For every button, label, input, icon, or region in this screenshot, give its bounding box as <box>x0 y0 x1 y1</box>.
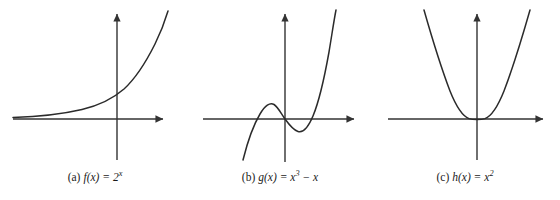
panel-c: (c)h(x) = x2 <box>370 0 560 200</box>
caption-panel-c: (c)h(x) = x2 <box>370 170 560 184</box>
caption-exponent-c: 2 <box>489 169 493 178</box>
caption-panel-b: (b)g(x) = x3 − x <box>190 170 370 184</box>
caption-expression-a: f(x) = 2x <box>83 171 122 183</box>
caption-label-c: (c) <box>436 171 449 183</box>
caption-exponent-a: x <box>119 169 123 178</box>
caption-label-b: (b) <box>242 171 255 183</box>
panel-b: (b)g(x) = x3 − x <box>190 0 370 200</box>
graph-cubic <box>190 0 370 168</box>
graph-exponential <box>0 0 190 168</box>
caption-panel-a: (a)f(x) = 2x <box>0 170 190 184</box>
panel-a: (a)f(x) = 2x <box>0 0 190 200</box>
curve-cubic <box>243 10 336 160</box>
caption-expression-b: g(x) = x3 − x <box>258 171 318 183</box>
curve-exponential <box>13 11 168 118</box>
graph-parabola <box>370 0 560 168</box>
caption-label-a: (a) <box>68 171 81 183</box>
figure-three-function-graphs: (a)f(x) = 2x (b)g(x) = x3 − x <box>0 0 560 200</box>
caption-tail-b: − x <box>300 171 319 183</box>
caption-expression-c: h(x) = x2 <box>452 171 493 183</box>
